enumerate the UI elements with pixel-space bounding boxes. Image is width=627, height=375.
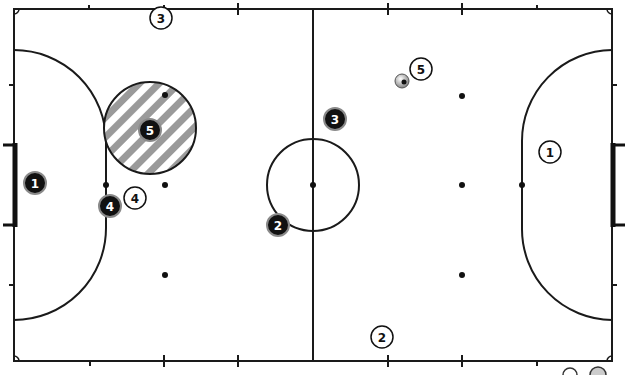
ball-icon — [395, 74, 409, 88]
player-number: 2 — [378, 331, 386, 345]
player-number: 2 — [274, 219, 282, 233]
cropped-icons — [563, 367, 606, 375]
spot — [519, 182, 525, 188]
left-goal — [3, 143, 16, 227]
dark-player-3: 3 — [324, 108, 346, 130]
player-number: 4 — [131, 192, 139, 206]
dark-player-2: 2 — [267, 214, 289, 236]
spot — [459, 272, 465, 278]
player-number: 3 — [331, 113, 339, 127]
center-spot — [310, 182, 316, 188]
dark-player-4: 4 — [99, 195, 121, 217]
light-team: 1 2 3 4 5 — [124, 7, 561, 348]
player-number: 1 — [546, 146, 554, 160]
futsal-court-diagram: 1 2 3 4 5 1 2 3 — [0, 0, 627, 375]
player-number: 5 — [417, 63, 425, 77]
right-penalty-area — [522, 50, 612, 320]
player-number: 3 — [157, 12, 165, 26]
spot — [103, 182, 109, 188]
player-number: 5 — [146, 124, 154, 138]
spot — [162, 92, 168, 98]
player-number: 4 — [106, 200, 114, 214]
light-player-5: 5 — [410, 58, 432, 80]
dark-player-5: 5 — [139, 119, 161, 141]
right-goal — [612, 143, 625, 227]
light-player-4: 4 — [124, 187, 146, 209]
spot — [162, 182, 168, 188]
player-number: 1 — [31, 177, 39, 191]
spot — [459, 182, 465, 188]
light-player-3: 3 — [150, 7, 172, 29]
light-player-1: 1 — [539, 141, 561, 163]
spot — [459, 93, 465, 99]
spot — [162, 272, 168, 278]
light-player-2: 2 — [371, 326, 393, 348]
dark-player-1: 1 — [24, 172, 46, 194]
